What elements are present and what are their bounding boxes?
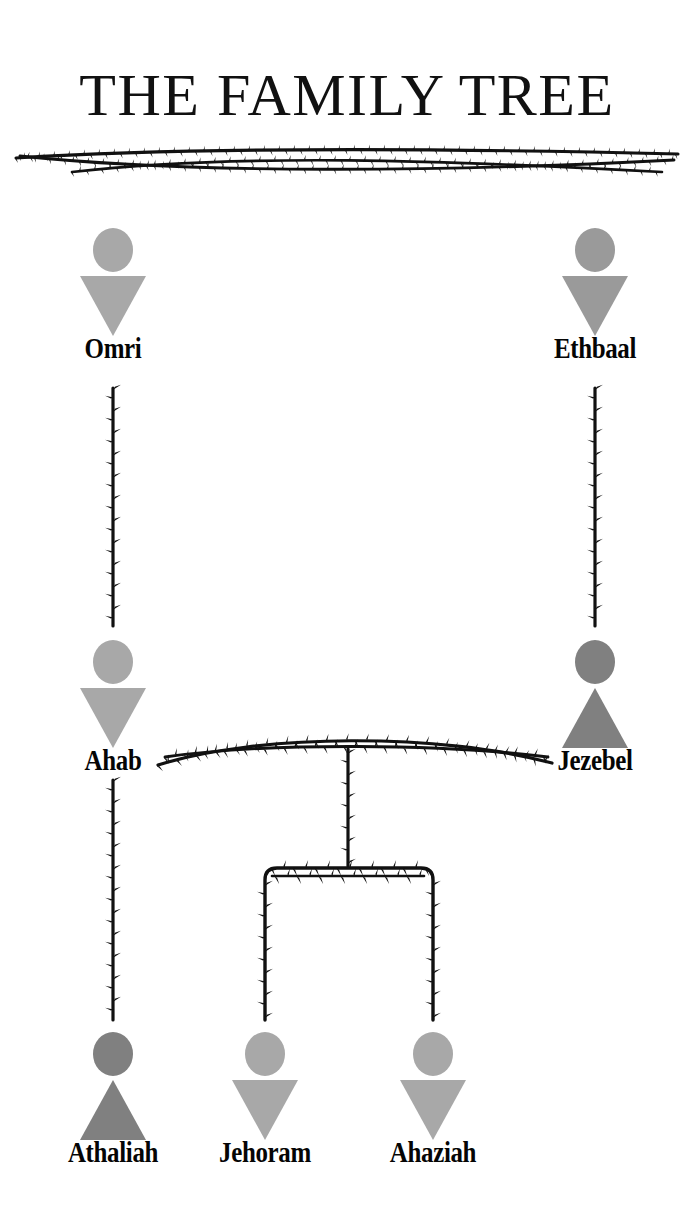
vine-ethbaal-to-jezebel	[587, 385, 603, 626]
vine-marriage-ahab-jezebel	[157, 733, 552, 771]
person-body-icon	[80, 688, 146, 748]
person-body-icon	[80, 276, 146, 336]
vine-omri-to-ahab	[105, 385, 121, 626]
person-node-athaliah[interactable]: Athaliah	[38, 1032, 188, 1168]
person-name-label: Ahaziah	[369, 1136, 498, 1168]
person-icon-male	[520, 228, 670, 332]
person-name-label: Omri	[49, 332, 178, 364]
family-tree-page: THE FAMILY TREE	[0, 0, 694, 1232]
person-body-icon	[562, 276, 628, 336]
person-node-ethbaal[interactable]: Ethbaal	[520, 228, 670, 364]
page-title: THE FAMILY TREE	[0, 62, 694, 128]
title-divider-ornament	[12, 138, 682, 184]
person-head-icon	[413, 1032, 453, 1076]
person-icon-male	[358, 1032, 508, 1136]
person-icon-female	[38, 1032, 188, 1136]
person-body-icon	[562, 688, 628, 748]
title-block: THE FAMILY TREE	[0, 62, 694, 128]
person-body-icon	[232, 1080, 298, 1140]
person-name-label: Jehoram	[201, 1136, 330, 1168]
person-head-icon	[93, 1032, 133, 1076]
person-head-icon	[575, 228, 615, 272]
vine-ahab-to-athaliah	[105, 777, 121, 1020]
person-head-icon	[93, 640, 133, 684]
person-node-ahab[interactable]: Ahab	[38, 640, 188, 776]
person-node-jezebel[interactable]: Jezebel	[520, 640, 670, 776]
person-icon-male	[190, 1032, 340, 1136]
person-node-jehoram[interactable]: Jehoram	[190, 1032, 340, 1168]
vine-children-bracket	[257, 860, 441, 1020]
person-body-icon	[400, 1080, 466, 1140]
person-name-label: Athaliah	[49, 1136, 178, 1168]
person-head-icon	[575, 640, 615, 684]
person-icon-male	[38, 228, 188, 332]
person-name-label: Jezebel	[531, 744, 660, 776]
person-head-icon	[245, 1032, 285, 1076]
person-name-label: Ahab	[49, 744, 178, 776]
person-body-icon	[80, 1080, 146, 1140]
vine-marriage-stem	[340, 749, 356, 866]
person-name-label: Ethbaal	[531, 332, 660, 364]
person-node-ahaziah[interactable]: Ahaziah	[358, 1032, 508, 1168]
person-head-icon	[93, 228, 133, 272]
person-icon-male	[38, 640, 188, 744]
person-icon-female	[520, 640, 670, 744]
person-node-omri[interactable]: Omri	[38, 228, 188, 364]
